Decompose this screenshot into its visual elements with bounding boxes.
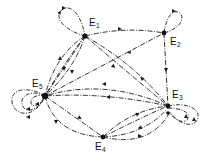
self-loop-e2: [164, 12, 182, 33]
edge-e1-e3-a: [85, 36, 168, 106]
label-e5: E: [32, 78, 39, 89]
label-e5-sub: 5: [39, 83, 43, 90]
node-e3: [166, 104, 171, 109]
label-e4-sub: 4: [102, 146, 106, 153]
label-e1-sub: 1: [96, 22, 100, 29]
edge-e4-e3-c: [103, 108, 168, 137]
edge-e1-e2: [85, 30, 164, 36]
self-loop-e1: [59, 8, 85, 36]
edge-e3-e5-b: [45, 95, 168, 106]
edge-e1-e5-d: [45, 36, 85, 96]
self-loop-e3: [168, 105, 198, 125]
label-e4: E: [95, 141, 102, 152]
label-e2: E: [170, 36, 177, 47]
node-e3-secondary: [166, 111, 170, 115]
label-e2-sub: 2: [177, 41, 181, 48]
arrowheads: [26, 6, 196, 138]
node-e5: [42, 93, 48, 99]
self-loop-e3-inner: [168, 108, 188, 121]
node-e4: [101, 135, 106, 140]
label-e1: E: [89, 17, 96, 28]
edge-e4-e3-b: [103, 106, 168, 137]
label-e3: E: [172, 89, 179, 100]
edge-e3-e5-a: [45, 89, 168, 106]
node-e1: [82, 33, 87, 38]
edge-e5-e2: [45, 33, 164, 96]
state-transition-diagram: E 1 E 2 E 3 E 4 E 5: [0, 0, 211, 160]
node-e2: [162, 31, 167, 36]
edge-e4-e3-d: [103, 112, 170, 140]
label-e3-sub: 3: [179, 94, 183, 101]
